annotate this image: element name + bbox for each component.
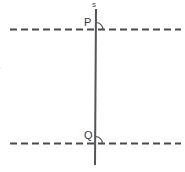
transversal-line-s	[95, 9, 96, 165]
point-label-q: Q	[84, 130, 93, 141]
edge-partial-mark: '	[0, 66, 1, 75]
angle-arc-q	[96, 137, 103, 144]
geometry-figure: s P Q '	[0, 0, 185, 172]
figure-canvas	[0, 0, 185, 172]
angle-arc-p	[96, 23, 103, 30]
point-label-p: P	[84, 17, 91, 28]
transversal-label-s: s	[92, 1, 96, 9]
